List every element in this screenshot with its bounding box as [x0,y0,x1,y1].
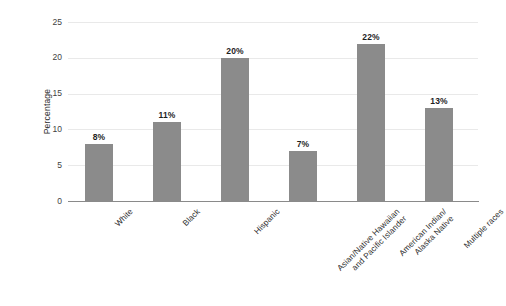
gridline [68,58,478,59]
x-axis-category-label: Asian/Native Hawaiian and Pacific Island… [336,207,410,281]
gridline [68,129,478,130]
gridline [68,165,478,166]
bar [357,44,385,202]
x-axis-category-label: White [113,207,135,229]
bar [289,151,317,201]
bar [153,122,181,201]
y-axis-tick-label: 15 [38,89,62,98]
plot-area: Percentage 8%11%20%7%22%13% [68,22,478,201]
gridline [68,94,478,95]
bar [85,144,113,201]
bar-value-label: 22% [348,32,394,42]
bar [425,108,453,201]
bar-value-label: 11% [144,110,190,120]
y-axis-tick-label: 25 [38,18,62,27]
bar [221,58,249,201]
y-axis-tick-label: 5 [38,161,62,170]
y-axis-tick-label: 20 [38,53,62,62]
gridline [68,22,478,23]
bar-value-label: 8% [76,132,122,142]
y-axis-tick-label: 10 [38,125,62,134]
x-axis-category-label: Black [181,207,203,229]
x-axis-category-label: Hispanic [252,207,282,237]
x-axis-category-label: American Indian/ Alaska Native [397,207,456,266]
bar-value-label: 13% [416,96,462,106]
x-axis-category-label: Multiple races [462,207,506,251]
x-axis-baseline [68,201,479,202]
y-axis-title: Percentage [42,22,56,201]
y-axis-tick-label: 0 [38,197,62,206]
bar-value-label: 20% [212,46,258,56]
bar-value-label: 7% [280,139,326,149]
